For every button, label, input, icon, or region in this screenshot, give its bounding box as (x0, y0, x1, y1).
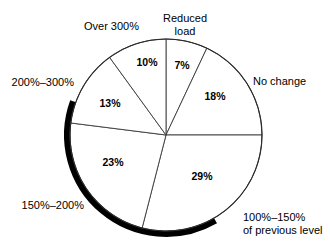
pie-category-label: 100%–150%of previous level (243, 211, 323, 236)
pie-category-label-line: 150%–200% (22, 199, 85, 211)
pie-slice-value-label: 13% (99, 97, 121, 109)
pie-category-label: Over 300% (84, 20, 139, 32)
pie-category-label-line: Over 300% (84, 20, 139, 32)
pie-slices-group (70, 39, 262, 231)
pie-category-label-line: 200%–300% (12, 76, 75, 88)
pie-slice-value-label: 18% (204, 90, 226, 102)
pie-category-label-line: 100%–150% (243, 211, 306, 223)
pie-chart: 7%18%29%23%13%10% ReducedloadNo change10… (0, 0, 330, 243)
pie-category-label: Reducedload (163, 12, 207, 37)
pie-category-label-line: of previous level (243, 224, 323, 236)
pie-slice-value-label: 7% (174, 59, 190, 71)
pie-slice-value-label: 23% (102, 156, 124, 168)
pie-category-label-line: load (175, 25, 196, 37)
pie-category-label: 200%–300% (12, 76, 75, 88)
pie-category-label-line: Reduced (163, 12, 207, 24)
pie-slice-value-label: 29% (191, 170, 213, 182)
pie-category-label: 150%–200% (22, 199, 85, 211)
pie-category-label-line: No change (253, 75, 306, 87)
pie-category-label: No change (253, 75, 306, 87)
pie-chart-canvas: 7%18%29%23%13%10% ReducedloadNo change10… (0, 0, 330, 243)
pie-slice-value-label: 10% (136, 56, 158, 68)
